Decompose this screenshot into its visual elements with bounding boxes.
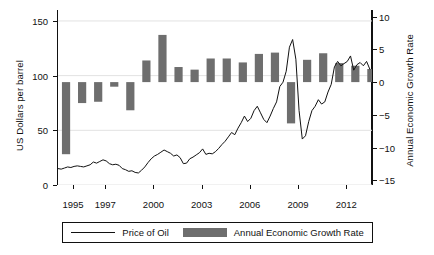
y-tick-label-left: 0 [43, 180, 48, 191]
plot-svg [58, 10, 373, 185]
x-tick-label: 1997 [95, 199, 116, 210]
legend-line-marker [71, 232, 115, 233]
legend-label-growth-rate: Annual Economic Growth Rate [234, 227, 364, 238]
bar-growth-rate [303, 60, 311, 82]
y-axis-left-ticks: 050100150 [14, 0, 48, 255]
bar-growth-rate [287, 82, 295, 123]
bar-growth-rate [158, 35, 166, 82]
y-tick-label-right: 10 [379, 11, 390, 22]
y-tick-label-right: −10 [379, 142, 395, 153]
tick-mark [373, 180, 377, 181]
tick-mark [373, 115, 377, 116]
bar-growth-rate [174, 67, 182, 82]
bar-growth-rate [191, 70, 199, 82]
bar-growth-rate [223, 59, 231, 83]
tick-mark [373, 148, 377, 149]
tick-mark [373, 82, 377, 83]
tick-mark [250, 185, 251, 189]
tick-mark [53, 130, 57, 131]
y-tick-label-left: 100 [32, 70, 48, 81]
x-tick-label: 2012 [336, 199, 357, 210]
bar-growth-rate [207, 59, 215, 83]
y-axis-left-spine [57, 10, 58, 185]
x-tick-label: 2006 [239, 199, 260, 210]
tick-mark [153, 185, 154, 189]
bar-growth-rate [271, 53, 279, 82]
y-tick-label-right: −5 [379, 109, 390, 120]
bar-growth-rate [94, 82, 102, 102]
tick-mark [53, 76, 57, 77]
tick-mark [346, 185, 347, 189]
tick-mark [298, 185, 299, 189]
bar-growth-rate [110, 82, 118, 87]
tick-mark [373, 49, 377, 50]
tick-mark [53, 185, 57, 186]
y-tick-label-right: 0 [379, 77, 384, 88]
bar-growth-rate [255, 54, 263, 82]
y-axis-right-ticks: −15−10−50510 [379, 0, 413, 255]
y-tick-label-right: 5 [379, 44, 384, 55]
legend-item-growth-rate: Annual Economic Growth Rate [183, 227, 364, 238]
tick-mark [73, 185, 74, 189]
legend-swatch-marker [183, 228, 227, 237]
bar-growth-rate [126, 82, 134, 110]
tick-mark [202, 185, 203, 189]
tick-mark [53, 21, 57, 22]
bar-growth-rate [335, 63, 343, 82]
tick-mark [105, 185, 106, 189]
y-tick-label-left: 150 [32, 15, 48, 26]
y-tick-label-left: 50 [37, 125, 48, 136]
legend-label-price-of-oil: Price of Oil [122, 227, 168, 238]
oil-price-growth-chart: US Dollars per barrel Annual Economic Gr… [0, 0, 434, 255]
x-tick-label: 2000 [143, 199, 164, 210]
bar-growth-rate [239, 62, 247, 82]
bar-growth-rate [142, 60, 150, 82]
bar-growth-rate [62, 82, 70, 154]
x-tick-label: 2009 [287, 199, 308, 210]
y-tick-label-right: −15 [379, 175, 395, 186]
legend-item-price-of-oil: Price of Oil [71, 227, 168, 238]
chart-legend: Price of Oil Annual Economic Growth Rate [62, 222, 373, 243]
x-tick-label: 1995 [62, 199, 83, 210]
y-axis-right-spine [372, 10, 373, 185]
x-tick-label: 2003 [191, 199, 212, 210]
bar-growth-rate [78, 82, 86, 103]
bar-growth-rate [319, 53, 327, 82]
tick-mark [373, 17, 377, 18]
plot-area [57, 10, 372, 185]
x-axis-ticks: 1995199720002003200620092012 [0, 192, 434, 206]
